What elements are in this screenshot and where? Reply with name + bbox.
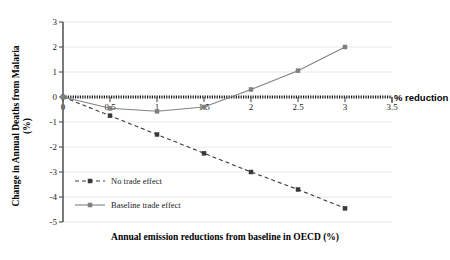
- data-point-baseline-trade-effect: [61, 95, 65, 99]
- data-point-no-trade-effect: [296, 188, 300, 192]
- legend-label-0: No trade effect: [111, 176, 162, 186]
- legend-marker-0: [88, 179, 92, 183]
- data-point-baseline-trade-effect: [202, 105, 206, 109]
- data-point-no-trade-effect: [249, 170, 253, 174]
- data-point-baseline-trade-effect: [155, 109, 159, 113]
- data-point-no-trade-effect: [155, 133, 159, 137]
- data-point-no-trade-effect: [343, 206, 347, 210]
- chart-figure: Change in Annual Deaths from Malaria (%)…: [0, 0, 450, 260]
- data-point-baseline-trade-effect: [108, 106, 112, 110]
- data-point-no-trade-effect: [108, 114, 112, 118]
- legend-marker-1: [88, 203, 92, 207]
- data-point-baseline-trade-effect: [296, 69, 300, 73]
- data-point-baseline-trade-effect: [343, 45, 347, 49]
- plot-area: No trade effectBaseline trade effect: [0, 0, 450, 260]
- data-point-baseline-trade-effect: [249, 88, 253, 92]
- legend-label-1: Baseline trade effect: [111, 200, 181, 210]
- data-point-no-trade-effect: [202, 151, 206, 155]
